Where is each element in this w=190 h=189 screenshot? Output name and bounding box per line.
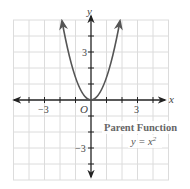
parabola-graph: y x O −3 3 3 −3 Parent Function y = x2 — [0, 0, 190, 189]
equation-exponent: 2 — [153, 135, 157, 143]
y-axis-label: y — [86, 5, 92, 17]
x-tick-label-3: 3 — [134, 104, 139, 115]
y-tick-label-neg3: −3 — [75, 143, 86, 154]
caption-title: Parent Function — [104, 122, 177, 133]
x-tick-label-neg3: −3 — [38, 104, 49, 115]
x-axis-label: x — [168, 93, 174, 105]
origin-label: O — [80, 103, 88, 115]
equation-base: y = x — [130, 136, 153, 147]
y-tick-label-3: 3 — [82, 47, 87, 58]
axes — [14, 16, 165, 177]
